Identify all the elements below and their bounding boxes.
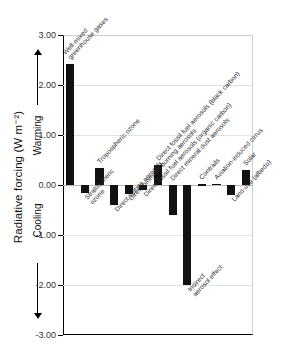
bar bbox=[212, 184, 220, 186]
y-tick-label: -2.00 bbox=[35, 280, 56, 290]
y-axis-title: Radiative forcing (W m⁻²) bbox=[11, 17, 25, 337]
bar bbox=[169, 185, 177, 215]
y-tick-label: -1.00 bbox=[35, 230, 56, 240]
y-tick-label: 3.00 bbox=[38, 30, 56, 40]
bar bbox=[183, 185, 191, 285]
y-tick bbox=[58, 285, 63, 286]
y-tick-label: -3.00 bbox=[35, 330, 56, 340]
bar bbox=[66, 64, 74, 185]
y-tick bbox=[58, 35, 63, 36]
gridline bbox=[63, 135, 253, 136]
y-tick bbox=[58, 335, 63, 336]
y-tick bbox=[58, 85, 63, 86]
bar bbox=[198, 184, 206, 186]
y-tick bbox=[58, 235, 63, 236]
y-tick bbox=[58, 185, 63, 186]
y-tick bbox=[58, 135, 63, 136]
gridline bbox=[63, 285, 253, 286]
plot-area: 3.002.001.000.00-1.00-2.00-3.00 Well-mix… bbox=[63, 35, 253, 335]
y-tick-label: 2.00 bbox=[38, 80, 56, 90]
y-tick-label: 0.00 bbox=[38, 180, 56, 190]
gridline bbox=[63, 235, 253, 236]
radiative-forcing-chart: Radiative forcing (W m⁻²) Warming Coolin… bbox=[0, 0, 284, 353]
y-tick-label: 1.00 bbox=[38, 130, 56, 140]
